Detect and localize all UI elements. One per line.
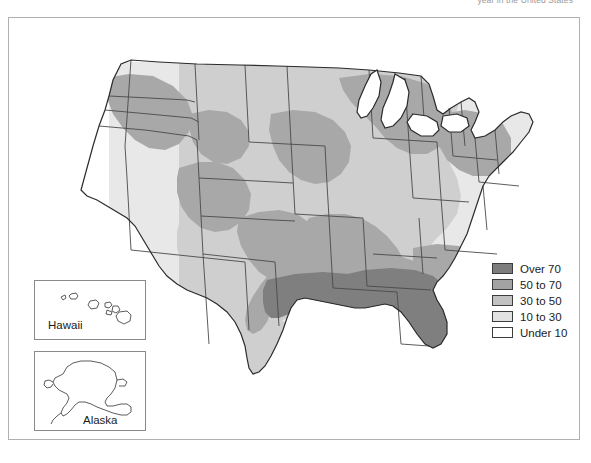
caption-strip: year in the United States (0, 0, 591, 13)
legend-label-50-to-70: 50 to 70 (520, 279, 562, 291)
figure-frame: Over 70 50 to 70 30 to 50 10 to 30 Under… (8, 17, 580, 440)
legend-swatch-30-to-50 (492, 295, 513, 306)
legend-label-10-to-30: 10 to 30 (520, 311, 562, 323)
legend-item-10-to-30[interactable]: 10 to 30 (492, 310, 578, 323)
figure-caption: year in the United States (477, 0, 573, 5)
hawaii-inset[interactable]: Hawaii (34, 280, 146, 340)
legend-label-over-70: Over 70 (520, 263, 561, 275)
legend-swatch-over-70 (492, 263, 513, 274)
legend-label-30-to-50: 30 to 50 (520, 295, 562, 307)
alaska-inset-label: Alaska (83, 414, 118, 426)
map-stage: Over 70 50 to 70 30 to 50 10 to 30 Under… (9, 18, 579, 439)
legend-item-50-to-70[interactable]: 50 to 70 (492, 278, 578, 291)
legend-swatch-50-to-70 (492, 279, 513, 290)
legend-item-under-10[interactable]: Under 10 (492, 326, 578, 339)
legend-item-30-to-50[interactable]: 30 to 50 (492, 294, 578, 307)
map-legend: Over 70 50 to 70 30 to 50 10 to 30 Under… (492, 262, 578, 339)
legend-item-over-70[interactable]: Over 70 (492, 262, 578, 275)
legend-swatch-under-10 (492, 327, 513, 338)
hawaii-inset-label: Hawaii (48, 319, 83, 331)
legend-swatch-10-to-30 (492, 311, 513, 322)
legend-label-under-10: Under 10 (520, 327, 567, 339)
alaska-inset[interactable]: Alaska (34, 351, 146, 431)
